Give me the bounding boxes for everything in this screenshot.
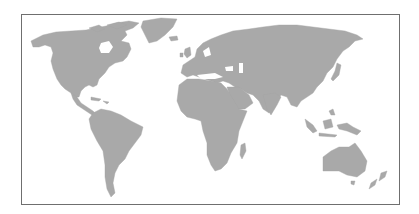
region-india <box>263 93 281 115</box>
region-north-america <box>31 21 139 97</box>
region-south-america <box>89 109 143 197</box>
region-iceland <box>169 36 178 41</box>
region-australia <box>323 143 367 177</box>
region-madagascar <box>240 143 246 159</box>
region-british-isles <box>180 47 191 58</box>
region-new-zealand <box>369 171 387 189</box>
world-map <box>21 14 400 205</box>
region-tasmania <box>351 181 355 185</box>
region-southeast-asia <box>305 109 361 137</box>
region-caribbean <box>91 97 109 104</box>
